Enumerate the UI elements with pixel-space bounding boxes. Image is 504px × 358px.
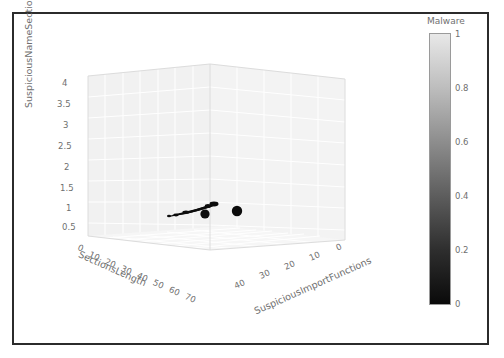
colorbar-tick-label: 0	[455, 299, 460, 309]
pane-back-left	[88, 64, 210, 250]
z-tick-label: 2	[64, 162, 70, 172]
colorbar-tick-label: 0.6	[455, 137, 469, 147]
z-tick-label: 2.5	[58, 141, 72, 151]
colorbar[interactable]	[429, 33, 451, 305]
z-tick-label: 3	[63, 120, 69, 130]
figure-canvas: 4 3.5 3 2.5 2 1.5 1 0.5 SuspiciousNameSe…	[0, 0, 504, 358]
colorbar-tick-label: 0.4	[455, 191, 469, 201]
colorbar-tick-label: 1	[455, 29, 460, 39]
z-tick-label: 1	[66, 203, 72, 213]
colorbar-gradient	[429, 33, 451, 305]
pane-back-right	[210, 64, 345, 250]
z-tick-label: 0.5	[62, 222, 76, 232]
colorbar-tick-label: 0.8	[455, 83, 469, 93]
z-tick-label: 1.5	[60, 183, 74, 193]
z-axis-label: SuspiciousNameSection	[23, 0, 34, 108]
z-tick-label: 4	[62, 78, 68, 88]
z-tick-label: 3.5	[57, 99, 71, 109]
colorbar-title: Malware	[427, 16, 465, 26]
colorbar-tick-label: 0.2	[455, 245, 469, 255]
